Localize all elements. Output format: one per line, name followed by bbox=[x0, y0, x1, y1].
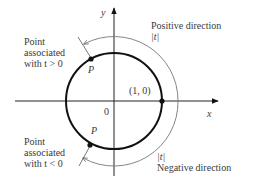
positive-direction-label: Positive direction |t| bbox=[151, 20, 221, 42]
positive-arc-length-label: |t| bbox=[151, 31, 221, 42]
p-negative-label: P bbox=[91, 125, 97, 136]
positive-point-caption: Point associated with t > 0 bbox=[24, 36, 65, 69]
caption-line: associated bbox=[24, 147, 65, 158]
positive-arc-tick bbox=[78, 37, 91, 58]
y-axis-label: y bbox=[101, 7, 105, 18]
origin-label: 0 bbox=[104, 106, 109, 117]
point-p-positive bbox=[88, 56, 93, 61]
caption-line: Point bbox=[24, 136, 65, 147]
negative-point-caption: Point associated with t < 0 bbox=[24, 136, 65, 169]
caption-line: with t < 0 bbox=[24, 158, 65, 169]
caption-line: associated bbox=[24, 47, 65, 58]
caption-line: Point bbox=[24, 36, 65, 47]
negative-direction-label: |t| Negative direction bbox=[157, 151, 231, 173]
negative-direction-title: Negative direction bbox=[157, 162, 231, 173]
x-axis-label: x bbox=[207, 108, 211, 119]
positive-direction-title: Positive direction bbox=[151, 20, 221, 31]
negative-arc-tick bbox=[79, 146, 90, 166]
point-p-negative bbox=[87, 142, 92, 147]
p-positive-label: P bbox=[88, 64, 94, 75]
unit-point-label: (1, 0) bbox=[129, 85, 151, 96]
negative-arc-length-label: |t| bbox=[157, 151, 231, 162]
point-one-zero bbox=[159, 98, 164, 103]
caption-line: with t > 0 bbox=[24, 58, 65, 69]
